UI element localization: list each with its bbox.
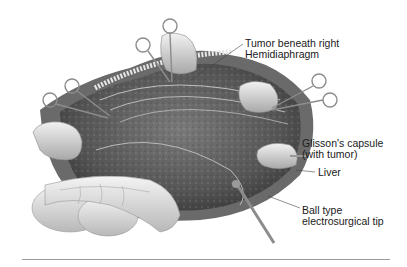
label-tumor-line2: Hemidiaphragm — [245, 49, 339, 60]
bowel-loops — [32, 176, 180, 236]
label-liver-text: Liver — [318, 167, 341, 178]
label-tumor: Tumor beneath right Hemidiaphragm — [245, 38, 339, 60]
label-electrosurgical-tip: Ball type electrosurgical tip — [302, 205, 384, 227]
label-glisson-line2: (with tumor) — [302, 149, 383, 160]
label-glisson-capsule: Glisson's capsule (with tumor) — [302, 138, 383, 160]
label-liver: Liver — [318, 167, 341, 178]
bottom-divider — [22, 259, 390, 260]
label-tip-line2: electrosurgical tip — [302, 216, 384, 227]
